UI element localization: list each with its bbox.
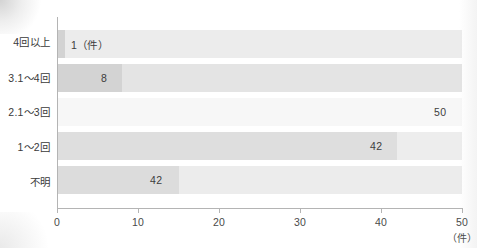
x-tick-20 (219, 208, 220, 213)
bar-4kai-ijo (57, 30, 65, 58)
x-tick-10 (138, 208, 139, 213)
category-label-3_1-4kai: 3.1～4回 (0, 70, 50, 85)
bar-row-1-2kai: 42 (57, 132, 462, 160)
plot-area: 1（件） 8 50 42 42 (57, 18, 462, 208)
row-background-band (57, 30, 462, 58)
bar-2_1-3kai (57, 98, 462, 126)
x-tick-30 (300, 208, 301, 213)
bar-row-fumei: 42 (57, 166, 462, 194)
bar-value-2_1-3kai: 50 (434, 106, 446, 118)
x-tick-label-10: 10 (132, 216, 144, 228)
bar-row-2_1-3kai: 50 (57, 98, 462, 126)
x-tick-40 (381, 208, 382, 213)
x-tick-label-30: 30 (294, 216, 306, 228)
y-axis-line (57, 17, 58, 209)
x-tick-50 (462, 208, 463, 213)
x-tick-label-40: 40 (375, 216, 387, 228)
horizontal-bar-chart: 4回以上 3.1～4回 2.1～3回 1～2回 不明 1（件） 8 50 42 (0, 0, 477, 248)
x-tick-label-20: 20 (213, 216, 225, 228)
bar-row-3_1-4kai: 8 (57, 64, 462, 92)
bar-3_1-4kai (57, 64, 122, 92)
bar-row-4kai-ijo: 1（件） (57, 30, 462, 58)
x-axis-unit-label: （件） (447, 230, 477, 245)
category-label-2_1-3kai: 2.1～3回 (0, 104, 50, 119)
x-axis-line (57, 208, 463, 209)
bar-value-1-2kai: 42 (370, 140, 382, 152)
category-label-4kai-ijo: 4回以上 (0, 34, 50, 49)
bar-value-4kai-ijo: 1（件） (71, 37, 108, 52)
bar-1-2kai (57, 132, 397, 160)
category-label-fumei: 不明 (0, 174, 50, 189)
bar-value-fumei: 42 (150, 174, 162, 186)
x-tick-0 (57, 208, 58, 213)
bar-value-3_1-4kai: 8 (101, 72, 107, 84)
x-tick-label-50: 50 (456, 216, 468, 228)
x-tick-label-0: 0 (54, 216, 60, 228)
category-label-1-2kai: 1～2回 (0, 139, 50, 154)
